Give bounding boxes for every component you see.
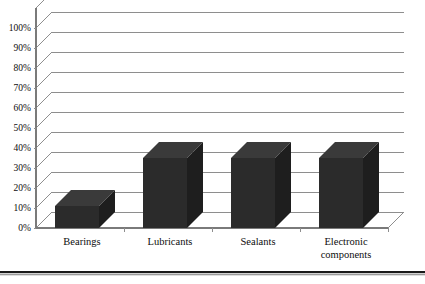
bar-3d bbox=[55, 190, 115, 228]
depth-connector bbox=[36, 132, 52, 148]
bottom-rule bbox=[0, 271, 425, 273]
y-tick-label: 80% bbox=[14, 63, 32, 73]
depth-connector bbox=[36, 12, 52, 28]
y-tick-label: 30% bbox=[14, 163, 32, 173]
bar-front-face bbox=[143, 158, 187, 228]
bottom-rule-secondary bbox=[0, 274, 425, 275]
bar-3d bbox=[319, 142, 379, 228]
y-tick-label: 10% bbox=[14, 203, 32, 213]
y-tick-label: 60% bbox=[14, 103, 32, 113]
floor-right-edge bbox=[388, 212, 404, 228]
y-tick-label: 90% bbox=[14, 43, 32, 53]
x-category-label: Lubricants bbox=[148, 236, 193, 247]
depth-connector bbox=[36, 152, 52, 168]
bar-front-face bbox=[55, 206, 99, 228]
depth-connector bbox=[36, 72, 52, 88]
depth-connector bbox=[36, 192, 52, 208]
chart-figure: 0%10%20%30%40%50%60%70%80%90%100%Bearing… bbox=[0, 0, 425, 284]
depth-connector bbox=[36, 92, 52, 108]
bar-3d bbox=[143, 142, 203, 228]
x-category-label: Electronic bbox=[324, 236, 367, 247]
y-tick-label: 50% bbox=[14, 123, 32, 133]
y-tick-label: 100% bbox=[9, 23, 31, 33]
y-tick-label: 20% bbox=[14, 183, 32, 193]
x-category-label: Sealants bbox=[241, 236, 276, 247]
depth-connector-top bbox=[36, 0, 52, 8]
x-category-label: Bearings bbox=[63, 236, 100, 247]
bar-chart-3d: 0%10%20%30%40%50%60%70%80%90%100%Bearing… bbox=[0, 0, 425, 284]
x-category-label: components bbox=[321, 249, 372, 260]
depth-connector bbox=[36, 112, 52, 128]
y-tick-label: 40% bbox=[14, 143, 32, 153]
depth-connector bbox=[36, 172, 52, 188]
depth-lines-group bbox=[36, 0, 52, 228]
bar-front-face bbox=[319, 158, 363, 228]
depth-connector bbox=[36, 52, 52, 68]
depth-connector bbox=[36, 212, 52, 228]
y-tick-label: 0% bbox=[18, 223, 31, 233]
depth-connector bbox=[36, 32, 52, 48]
y-tick-label: 70% bbox=[14, 83, 32, 93]
bar-3d bbox=[231, 142, 291, 228]
bar-front-face bbox=[231, 158, 275, 228]
bars-group bbox=[55, 142, 379, 228]
